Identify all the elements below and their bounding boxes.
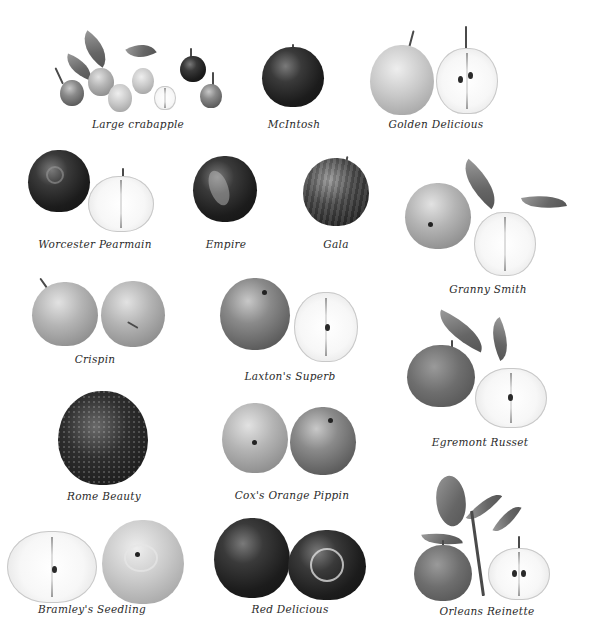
stem-cavity [428,222,433,227]
crabapple-fruit [180,56,206,82]
illustration-mcintosh [262,47,324,107]
illustration-orleans-reinette [414,545,472,601]
caption-crispin: Crispin [75,353,116,365]
caption-bramleys-seedling: Bramley's Seedling [38,603,146,615]
seed [512,570,517,577]
seed [458,76,463,83]
apple-varieties-plate: Large crabapple McIntosh Golden Deliciou… [0,0,605,630]
stem-icon [190,48,192,60]
orleans-reinette-cut-half [488,548,550,600]
caption-worcester-pearmain: Worcester Pearmain [38,238,152,250]
caption-gala: Gala [323,238,348,250]
caption-granny-smith: Granny Smith [449,283,527,295]
stem-icon [465,26,467,50]
leaf-icon [75,30,115,68]
crabapple-fruit [88,68,114,96]
caption-coxs-orange-pippin: Cox's Orange Pippin [235,489,350,501]
caption-empire: Empire [206,238,247,250]
seed [508,394,513,401]
caption-egremont-russet: Egremont Russet [432,436,529,448]
stem-cavity [328,418,333,423]
crabapple-fruit [108,84,132,112]
golden-delicious-cut-half [436,48,498,114]
calyx-eye [135,552,140,557]
caption-laxtons-superb: Laxton's Superb [244,370,335,382]
illustration-gala [303,158,369,226]
worcester-pearmain-cut-half [88,176,154,232]
illustration-egremont-russet [407,345,475,407]
branch-icon [470,511,485,597]
stem-icon [54,67,63,84]
leaf-icon [62,53,96,80]
seed [521,570,526,577]
caption-rome-beauty: Rome Beauty [67,490,141,502]
illustration-golden-delicious [370,45,434,115]
caption-orleans-reinette: Orleans Reinette [440,605,535,617]
leaf-icon [521,190,567,213]
calyx-ring [46,166,64,184]
illustration-crispin-second [101,281,165,347]
leaf-icon [483,317,516,361]
seed [468,72,473,79]
caption-mcintosh: McIntosh [268,118,321,130]
crabapple-fruit [132,68,154,94]
granny-smith-cut-half [474,212,536,276]
leaf-icon [492,501,521,537]
stem-cavity [262,290,267,295]
calyx-eye [252,440,257,445]
illustration-crispin [32,282,98,346]
illustration-granny-smith [405,183,471,249]
leaf-icon [430,473,472,529]
illustration-laxtons-superb [220,278,290,350]
caption-red-delicious: Red Delicious [251,603,328,615]
crabapple-fruit [60,80,84,106]
illustration-rome-beauty [58,391,148,485]
stem-icon [212,72,214,86]
calyx-ring [124,544,158,572]
calyx-ring [310,548,344,582]
crabapple-cut-half [154,86,176,110]
illustration-coxs-orange-pippin-second [290,407,356,475]
crabapple-fruit [200,84,222,108]
caption-large-crabapple: Large crabapple [92,118,184,130]
seed [52,566,57,573]
illustration-red-delicious [214,518,290,598]
seed [325,324,330,331]
illustration-coxs-orange-pippin [222,403,288,473]
caption-golden-delicious: Golden Delicious [389,118,484,130]
leaf-icon [125,37,157,66]
